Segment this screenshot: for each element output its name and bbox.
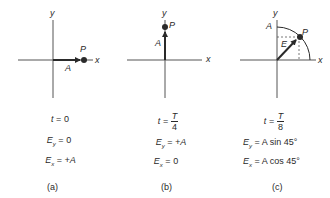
panel-c-amplitude-label: A (266, 22, 272, 31)
panel-a-x-axis-label: x (95, 56, 100, 65)
panel-c-time-equation: t = T8 (254, 111, 294, 132)
panel-a-caption: (a) (47, 183, 58, 192)
diagram-figure (0, 0, 330, 198)
panel-a-ey-equation: Ey = 0 (34, 136, 84, 147)
panel-a-ex-equation: Ex = +A (33, 156, 88, 167)
panel-b-vector-label: A (155, 39, 161, 48)
panel-c-y-axis-label: y (273, 9, 278, 18)
panel-b-x-axis-label: x (206, 55, 211, 64)
panel-a-time-equation: t = 0 (40, 115, 80, 124)
panel-c-x-axis-label: x (318, 56, 323, 65)
panel-c-ex-equation: Ex = A cos 45° (243, 157, 327, 168)
panel-b-ex-equation: Ex = 0 (143, 157, 189, 168)
panel-c-caption: (c) (272, 183, 283, 192)
panel-b-vector (162, 24, 168, 60)
panel-a-y-axis-label: y (50, 9, 55, 18)
panel-c-point-label: P (302, 28, 308, 37)
panel-a-vector-label: A (65, 64, 71, 73)
panel-b-caption: (b) (161, 183, 172, 192)
panel-b-point-label: P (169, 21, 175, 30)
panel-a-point-label: P (80, 45, 86, 54)
panel-b-y-axis-label: y (162, 9, 167, 18)
panel-b-ey-equation: Ey = +A (143, 138, 199, 149)
panel-b-time-equation: t = T4 (148, 111, 188, 132)
panel-c-ey-equation: Ey = A sin 45° (243, 138, 323, 149)
panel-c-vector-label: E (281, 40, 287, 49)
